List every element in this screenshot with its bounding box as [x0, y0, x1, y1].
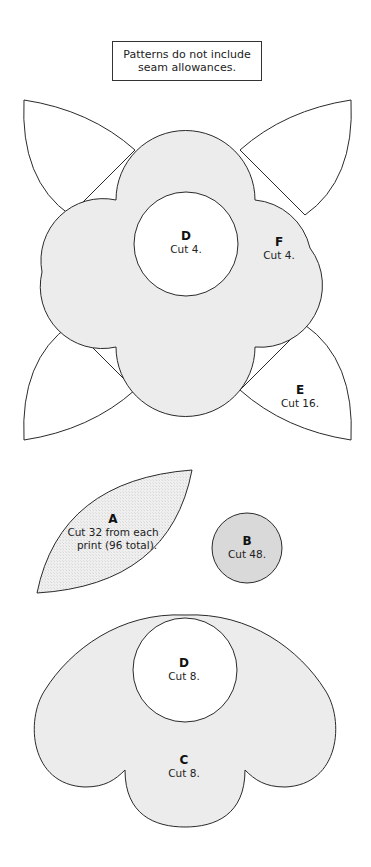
piece-b: B Cut 48.: [212, 513, 282, 583]
label-b-cut: Cut 48.: [228, 548, 266, 560]
label-d-flower: D: [181, 229, 191, 243]
label-a: A: [108, 512, 118, 526]
label-b: B: [242, 534, 251, 548]
label-f: F: [275, 235, 283, 249]
leaf-top-right: [240, 100, 351, 215]
label-a-cut-1: Cut 32 from each: [67, 526, 158, 538]
label-d-half: D: [179, 656, 189, 670]
label-d-flower-cut: Cut 4.: [170, 243, 201, 255]
label-c: C: [180, 753, 189, 767]
label-c-cut: Cut 8.: [168, 767, 199, 779]
label-e-cut: Cut 16.: [281, 397, 319, 409]
piece-c: D Cut 8. C Cut 8.: [34, 615, 335, 827]
label-d-half-cut: Cut 8.: [168, 670, 199, 682]
piece-a: A Cut 32 from each print (96 total).: [37, 470, 192, 593]
pattern-art: D Cut 4. F Cut 4. E Cut 16. A Cut 32 fro…: [0, 0, 371, 867]
label-f-cut: Cut 4.: [263, 249, 294, 261]
label-a-cut-2: print (96 total).: [77, 539, 157, 551]
label-e: E: [296, 383, 304, 397]
